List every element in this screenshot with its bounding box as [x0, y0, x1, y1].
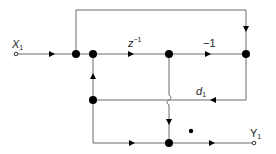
node-n3	[165, 50, 173, 58]
arrow-right-icon	[205, 51, 211, 57]
edge-n5-bottom	[93, 100, 169, 143]
d1-gain-label: d1	[196, 85, 206, 98]
input-label: X1	[11, 38, 23, 51]
arrow-left-icon	[210, 97, 216, 103]
node-n1	[72, 50, 80, 58]
stray-dot	[189, 129, 193, 133]
arrow-down-icon	[243, 26, 249, 32]
edge-top-feedforward	[76, 10, 246, 54]
output-label: Y1	[250, 127, 261, 140]
arrow-right-icon	[128, 51, 134, 57]
node-n6	[165, 139, 173, 147]
edge-n3-n6-crossover	[167, 54, 171, 143]
output-terminal	[252, 141, 256, 145]
arrow-up-icon	[90, 73, 96, 79]
arrow-down-icon	[166, 119, 172, 125]
negate-gain-label: −1	[203, 37, 216, 49]
delay-gain-label: z−1	[127, 36, 142, 49]
input-terminal	[14, 52, 18, 56]
signal-flow-graph: X1 z−1 −1 d1 Y1	[0, 0, 276, 154]
arrow-right-icon	[209, 140, 215, 146]
node-n5	[89, 96, 97, 104]
node-n4	[242, 50, 250, 58]
arrow-right-icon	[49, 51, 55, 57]
node-n2	[89, 50, 97, 58]
arrow-right-icon	[129, 140, 135, 146]
